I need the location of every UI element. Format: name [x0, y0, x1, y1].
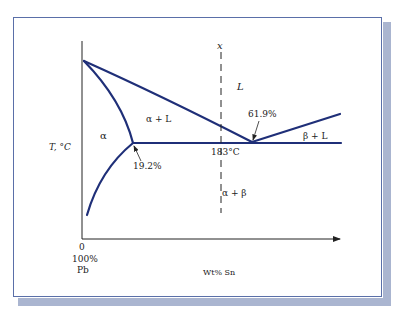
solvus-alpha — [87, 143, 133, 215]
eutectic-arrow — [253, 121, 259, 140]
phase-diagram: x L α α + L β + L α + β 61.9% 183°C 19.2… — [0, 0, 400, 316]
eutectic-composition-label: 61.9% — [248, 109, 277, 119]
origin-label-percent: 100% — [72, 254, 98, 264]
alpha-solubility-arrow — [134, 146, 141, 161]
origin-label-zero: 0 — [79, 242, 85, 252]
region-alpha-plus-liquid: α + L — [146, 114, 171, 124]
region-liquid: L — [236, 81, 244, 92]
x-axis-label: Wt% Sn — [203, 268, 235, 277]
liquidus-left — [84, 61, 252, 142]
composition-marker-label: x — [217, 40, 223, 51]
region-beta-plus-liquid: β + L — [303, 131, 327, 141]
region-alpha: α — [100, 130, 107, 141]
origin-label-element: Pb — [77, 265, 89, 275]
y-axis-label: T, °C — [49, 142, 71, 152]
alpha-solubility-label: 19.2% — [133, 161, 162, 171]
eutectic-temperature-label: 183°C — [211, 147, 240, 157]
region-alpha-plus-beta: α + β — [222, 188, 247, 198]
